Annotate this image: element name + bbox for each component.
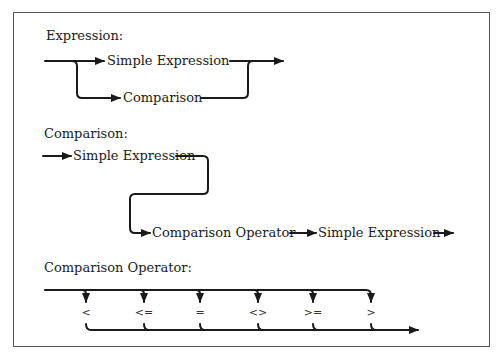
operator-greater-than: > [366, 307, 375, 318]
operator-equal: = [195, 307, 204, 318]
comparison-node-simple-expression-2: Simple Expression [318, 226, 440, 239]
expression-node-comparison: Comparison [123, 91, 202, 104]
operator-greater-equal: >= [304, 307, 322, 318]
comparison-connector [130, 156, 208, 233]
operator-less-equal: <= [135, 307, 153, 318]
comparison-title: Comparison: [44, 127, 128, 140]
comparison-node-simple-expression-1: Simple Expression [73, 149, 195, 162]
expression-title: Expression: [46, 29, 123, 42]
operator-bottom-rail [86, 324, 418, 330]
operator-top-rail [45, 290, 371, 295]
expression-node-simple-expression: Simple Expression [107, 54, 229, 67]
operator-less-than: < [81, 307, 90, 318]
comparison-node-comparison-operator: Comparison Operator [152, 226, 295, 239]
operator-not-equal: <> [249, 307, 267, 318]
comparison-operator-title: Comparison Operator: [44, 261, 192, 274]
